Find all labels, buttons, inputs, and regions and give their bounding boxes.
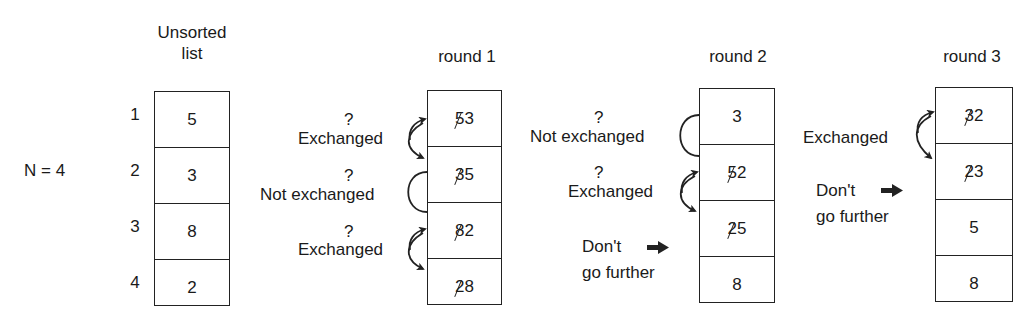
exchange-arrow-icon [409, 119, 425, 158]
right-arrow-icon [881, 184, 903, 197]
swap-arcs-overlay [0, 0, 1034, 319]
right-arrow-icon [647, 241, 669, 254]
exchange-arrow-icon [409, 229, 425, 269]
no-exchange-arc-icon [680, 115, 699, 156]
no-exchange-arc-icon [408, 172, 427, 212]
exchange-arrow-icon [681, 172, 697, 211]
exchange-arrow-icon [917, 112, 933, 158]
